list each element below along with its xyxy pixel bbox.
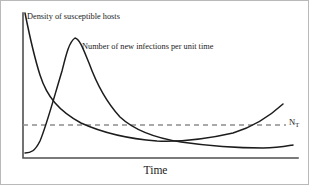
x-axis-label: Time xyxy=(1,165,309,177)
curve-new-infections xyxy=(25,38,293,153)
curve-label-susceptible-density: Density of susceptible hosts xyxy=(27,13,120,21)
curve-susceptible-density xyxy=(25,13,283,141)
threshold-label-subscript: T xyxy=(295,121,299,128)
axes-lines xyxy=(23,13,298,158)
figure-container: Density of susceptible hosts Number of n… xyxy=(0,0,309,185)
threshold-label-nt: NT xyxy=(289,118,299,127)
plot-area xyxy=(1,1,309,185)
curve-label-new-infections: Number of new infections per unit time xyxy=(82,43,213,51)
